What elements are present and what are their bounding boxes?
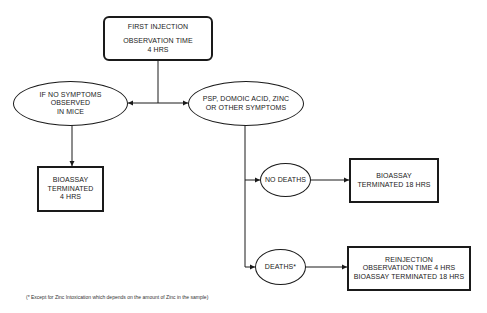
no-symptoms-node: IF NO SYMPTOMS OBSERVED IN MICE	[13, 81, 128, 126]
no-symptoms-line2: OBSERVED	[51, 99, 91, 108]
first-injection-node: FIRST INJECTION OBSERVATION TIME 4 HRS	[103, 16, 213, 61]
deaths-label: DEATHS*	[265, 263, 296, 272]
bioassay-18h-line2: TERMINATED 18 HRS	[357, 181, 430, 190]
no-deaths-node: NO DEATHS	[260, 163, 311, 197]
bioassay-4h-line3: 4 HRS	[60, 193, 81, 202]
symptoms-node: PSP, DOMOIC ACID, ZINC OR OTHER SYMPTOMS	[188, 81, 304, 126]
no-symptoms-line1: IF NO SYMPTOMS	[40, 91, 102, 100]
reinjection-node: REINJECTION OBSERVATION TIME 4 HRS BIOAS…	[347, 246, 471, 291]
bioassay-4h-node: BIOASSAY TERMINATED 4 HRS	[37, 166, 104, 212]
bioassay-4h-line1: BIOASSAY	[53, 176, 89, 185]
reinjection-line3: BIOASSAY TERMINATED 18 HRS	[354, 273, 465, 282]
no-symptoms-line3: IN MICE	[57, 108, 84, 117]
first-injection-observation: OBSERVATION TIME	[123, 37, 193, 46]
bioassay-18h-line1: BIOASSAY	[376, 172, 412, 181]
first-injection-title: FIRST INJECTION	[128, 23, 188, 32]
symptoms-line2: OR OTHER SYMPTOMS	[206, 104, 287, 113]
deaths-node: DEATHS*	[255, 249, 306, 285]
first-injection-duration: 4 HRS	[147, 46, 168, 55]
symptoms-line1: PSP, DOMOIC ACID, ZINC	[203, 95, 289, 104]
reinjection-line1: REINJECTION	[385, 256, 433, 265]
reinjection-line2: OBSERVATION TIME 4 HRS	[363, 264, 456, 273]
bioassay-18h-node: BIOASSAY TERMINATED 18 HRS	[349, 158, 439, 203]
footnote: (* Except for Zinc Intoxication which de…	[26, 294, 208, 300]
bioassay-4h-line2: TERMINATED	[48, 185, 94, 194]
no-deaths-label: NO DEATHS	[265, 176, 306, 185]
